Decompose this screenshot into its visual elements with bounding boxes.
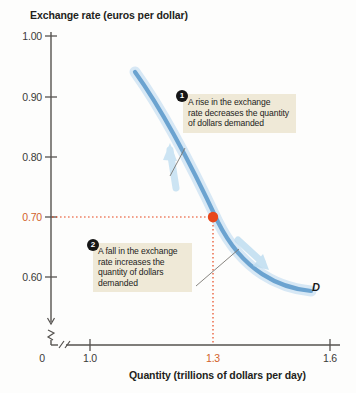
callout-2-line-2: rate increases the	[98, 257, 187, 268]
annotation-badge-1: 1	[176, 90, 188, 102]
annotation-callout-1: A rise in the exchange rate decreases th…	[183, 94, 296, 133]
callout-1-line-1: A rise in the exchange	[188, 97, 291, 108]
movement-arrow-up-icon	[163, 143, 177, 188]
callout-2-leader-line	[196, 249, 239, 286]
chart-canvas	[0, 0, 356, 393]
y-axis-break-icon	[48, 330, 54, 340]
callout-2-line-3: quantity of dollars	[98, 267, 187, 278]
callout-2-line-4: demanded	[98, 278, 187, 289]
annotation-callout-2: A fall in the exchange rate increases th…	[93, 243, 192, 292]
callout-1-line-3: of dollars demanded	[188, 118, 291, 129]
equilibrium-point-marker	[208, 212, 218, 222]
callout-1-line-2: rate decreases the quantity	[188, 108, 291, 119]
demand-curve-label: D	[312, 281, 320, 293]
demand-curve-figure: Exchange rate (euros per dollar) Quantit…	[0, 0, 356, 393]
annotation-badge-2: 2	[87, 239, 99, 251]
callout-2-line-1: A fall in the exchange	[98, 246, 187, 257]
